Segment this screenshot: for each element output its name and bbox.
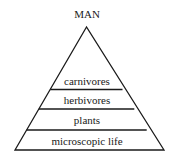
tier-label-herbivores: herbivores [64,94,110,106]
apex-label: MAN [74,8,100,20]
tier-label-plants: plants [74,114,100,126]
tier-label-microscopic-life: microscopic life [51,135,122,147]
food-pyramid-diagram: MAN carnivores herbivores plants microsc… [0,0,174,162]
pyramid-outline [15,27,164,150]
tier-label-carnivores: carnivores [64,75,110,87]
